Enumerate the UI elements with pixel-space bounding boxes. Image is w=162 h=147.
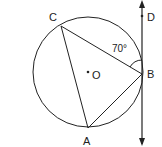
arrow-up-icon (139, 0, 145, 8)
point-o (87, 71, 90, 74)
angle-label: 70° (112, 43, 127, 54)
arrow-down-icon (139, 138, 145, 146)
label-b: B (147, 68, 154, 80)
segment-ca (61, 26, 88, 128)
label-d: D (147, 11, 155, 23)
label-o: O (92, 69, 101, 81)
label-c: C (49, 11, 57, 23)
angle-arc (130, 60, 142, 67)
label-a: A (83, 135, 91, 147)
geometry-diagram: C B A D O 70° (0, 0, 162, 147)
point-d (141, 15, 144, 18)
